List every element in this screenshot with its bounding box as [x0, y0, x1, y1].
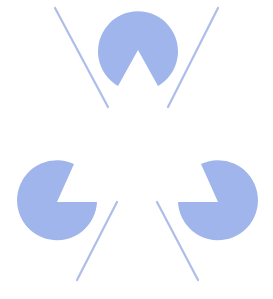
pacman-bottom-left	[17, 160, 97, 240]
pacman-bottom-right	[178, 160, 258, 240]
kanizsa-figure	[0, 0, 273, 299]
pacman-top	[98, 11, 178, 86]
pacmen-group	[17, 11, 258, 240]
